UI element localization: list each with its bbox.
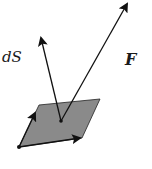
- surface-element: [19, 99, 100, 147]
- ds-label: dS: [2, 50, 22, 65]
- f-label: F: [125, 52, 136, 68]
- diagram-canvas: [0, 0, 152, 169]
- origin-point: [17, 145, 21, 149]
